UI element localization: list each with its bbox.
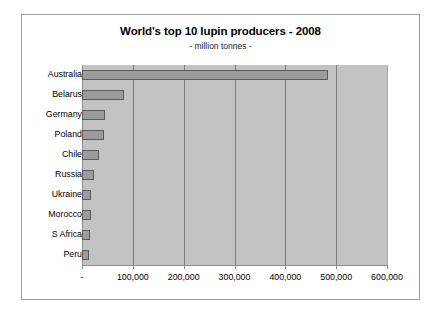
category-label: Germany: [0, 108, 82, 120]
x-axis-tickmark: [133, 265, 134, 269]
category-label: Ukraine: [0, 188, 82, 200]
bar: [82, 170, 94, 180]
chart-frame: World's top 10 lupin producers - 2008 - …: [21, 14, 420, 300]
bar-row: Germany: [22, 105, 387, 125]
x-axis-tickmark: [285, 265, 286, 269]
bar-row: Peru: [22, 245, 387, 265]
bar: [82, 210, 91, 220]
bar-row: Morocco: [22, 205, 387, 225]
bar-row: S Africa: [22, 225, 387, 245]
bar: [82, 230, 90, 240]
bar-row: Ukraine: [22, 185, 387, 205]
bar-row: Russia: [22, 165, 387, 185]
x-axis-tickmark: [235, 265, 236, 269]
bar: [82, 190, 91, 200]
category-label: Chile: [0, 148, 82, 160]
bar-row: Belarus: [22, 85, 387, 105]
category-label: Morocco: [0, 208, 82, 220]
x-axis-tick-label: 600,000: [357, 271, 417, 283]
bar: [82, 150, 99, 160]
bar-row: Chile: [22, 145, 387, 165]
x-axis-tickmark: [387, 265, 388, 269]
bar: [82, 130, 104, 140]
category-label: Poland: [0, 128, 82, 140]
plot-region: AustraliaBelarusGermanyPolandChileRussia…: [22, 15, 421, 301]
bar: [82, 110, 105, 120]
category-label: Belarus: [0, 88, 82, 100]
x-axis-tickmark: [336, 265, 337, 269]
x-axis-tickmark: [184, 265, 185, 269]
category-label: Russia: [0, 168, 82, 180]
bar: [82, 250, 89, 260]
category-label: Peru: [0, 248, 82, 260]
category-label: S Africa: [0, 228, 82, 240]
x-axis-tickmark: [82, 265, 83, 269]
gridline: [387, 65, 388, 265]
bar-row: Poland: [22, 125, 387, 145]
bar: [82, 70, 328, 80]
bar-row: Australia: [22, 65, 387, 85]
bar: [82, 90, 124, 100]
category-label: Australia: [0, 68, 82, 80]
